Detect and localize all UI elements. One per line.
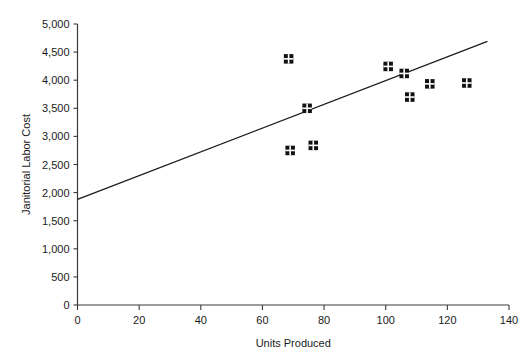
x-tick-label: 140 (500, 314, 518, 326)
chart-canvas: 05001,0001,5002,0002,5003,0003,5004,0004… (0, 0, 532, 364)
x-axis-tick-group: 020406080100120140 (74, 305, 518, 326)
y-tick-label: 2,000 (42, 187, 70, 199)
x-tick-label: 100 (377, 314, 395, 326)
y-tick-label: 1,000 (42, 243, 70, 255)
y-tick-label: 500 (51, 271, 69, 283)
data-point-marker (405, 92, 415, 102)
y-tick-label: 3,000 (42, 130, 70, 142)
data-point-marker (425, 79, 435, 89)
x-tick-label: 60 (256, 314, 268, 326)
data-point-marker (383, 62, 393, 72)
x-tick-label: 20 (133, 314, 145, 326)
data-point-marker (462, 78, 472, 88)
x-tick-label: 120 (438, 314, 456, 326)
y-tick-label: 4,000 (42, 74, 70, 86)
y-axis-tick-group: 05001,0001,5002,0002,5003,0003,5004,0004… (42, 18, 78, 311)
data-point-marker (309, 141, 319, 151)
y-tick-label: 2,500 (42, 159, 70, 171)
data-point-marker (302, 104, 312, 114)
scatter-chart: 05001,0001,5002,0002,5003,0003,5004,0004… (0, 0, 532, 364)
data-point-marker (399, 69, 409, 79)
y-tick-label: 4,500 (42, 46, 70, 58)
data-point-marker (284, 54, 294, 64)
axis-lines (78, 24, 510, 305)
y-tick-label: 1,500 (42, 215, 70, 227)
y-tick-label: 0 (63, 299, 69, 311)
x-tick-label: 40 (195, 314, 207, 326)
y-tick-label: 3,500 (42, 102, 70, 114)
data-point-marker (285, 146, 295, 156)
x-tick-label: 0 (74, 314, 80, 326)
trend-line-group (78, 41, 488, 199)
x-tick-label: 80 (318, 314, 330, 326)
y-tick-label: 5,000 (42, 18, 70, 30)
y-axis-title: Janitorial Labor Cost (20, 114, 32, 215)
x-axis-title: Units Produced (256, 337, 331, 349)
data-point-group (284, 54, 472, 155)
